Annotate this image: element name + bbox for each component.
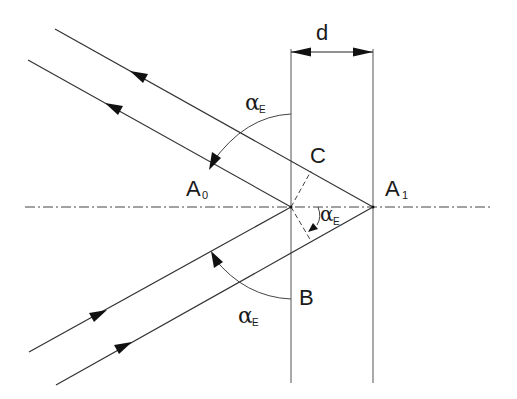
- ray-direction-arrows: [89, 71, 148, 354]
- svg-text:A: A: [186, 176, 201, 201]
- ray-lower-outer: [56, 207, 373, 385]
- svg-text:E: E: [333, 216, 340, 227]
- point-a1-marker: [372, 206, 375, 209]
- angle-arc-inner-arrowhead: [308, 223, 318, 232]
- angle-arc-lower: [214, 258, 291, 299]
- svg-text:A: A: [385, 176, 400, 201]
- dimension-arrowhead-right: [353, 48, 373, 57]
- dimension-arrowhead-left: [291, 48, 311, 57]
- angle-arc-lower-arrowhead: [211, 251, 223, 268]
- label-a0: A 0: [186, 176, 208, 201]
- label-a1: A 1: [385, 176, 408, 201]
- svg-text:α: α: [320, 202, 334, 226]
- label-b: B: [299, 285, 314, 310]
- optical-diagram: d C B A 0 A 1 α E: [0, 0, 517, 399]
- svg-text:α: α: [238, 303, 253, 328]
- label-c: C: [310, 143, 326, 168]
- svg-text:0: 0: [202, 189, 208, 201]
- ray-upper-inner: [28, 60, 291, 207]
- label-angle-upper: α E: [245, 90, 266, 115]
- label-angle-inner: α E: [320, 202, 340, 227]
- svg-text:1: 1: [402, 189, 408, 201]
- thickness-label: d: [316, 20, 328, 45]
- point-a0-marker: [290, 206, 293, 209]
- svg-text:α: α: [245, 90, 260, 115]
- ray-upper-outer: [55, 29, 373, 207]
- thickness-dimension: [291, 48, 373, 57]
- dashed-line-a0-b: [291, 207, 311, 241]
- svg-text:E: E: [252, 317, 259, 328]
- ray-lower-inner: [29, 207, 291, 352]
- label-angle-lower: α E: [238, 303, 259, 328]
- svg-text:E: E: [259, 104, 266, 115]
- dashed-line-a0-c: [291, 171, 311, 207]
